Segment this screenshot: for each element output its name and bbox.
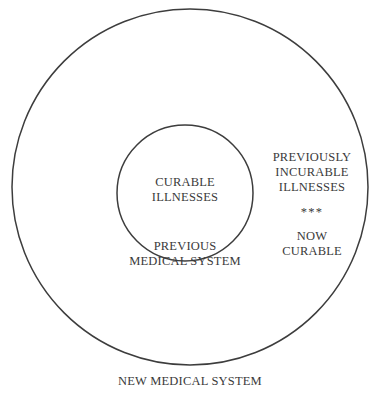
label-previously-incurable-illnesses: PREVIOUSLY INCURABLE ILLNESSES: [262, 150, 362, 194]
diagram-canvas: CURABLE ILLNESSES PREVIOUS MEDICAL SYSTE…: [0, 0, 380, 397]
curable-illnesses-line-1: CURABLE: [125, 175, 245, 190]
label-previous-medical-system: PREVIOUS MEDICAL SYSTEM: [105, 239, 265, 269]
asterisk-separator: ***: [262, 205, 362, 220]
now-curable-line-1: NOW: [262, 229, 362, 244]
asterisk-separator-text: ***: [262, 205, 362, 220]
previous-medical-system-line-2: MEDICAL SYSTEM: [105, 254, 265, 269]
label-new-medical-system: NEW MEDICAL SYSTEM: [70, 374, 310, 389]
label-now-curable: NOW CURABLE: [262, 229, 362, 259]
previous-medical-system-line-1: PREVIOUS: [105, 239, 265, 254]
new-medical-system-text: NEW MEDICAL SYSTEM: [70, 374, 310, 389]
previously-incurable-line-2: INCURABLE: [262, 165, 362, 180]
previously-incurable-line-1: PREVIOUSLY: [262, 150, 362, 165]
label-curable-illnesses: CURABLE ILLNESSES: [125, 175, 245, 205]
now-curable-line-2: CURABLE: [262, 244, 362, 259]
previously-incurable-line-3: ILLNESSES: [262, 180, 362, 195]
curable-illnesses-line-2: ILLNESSES: [125, 190, 245, 205]
